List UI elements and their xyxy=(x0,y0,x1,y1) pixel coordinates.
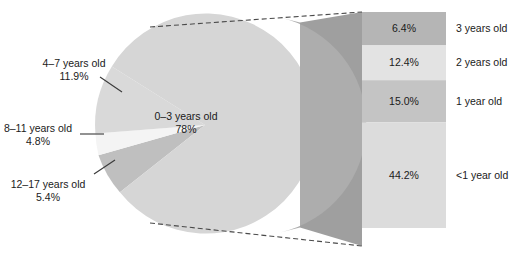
callout-8-11-years-value: 4.8% xyxy=(0,135,84,148)
callout-8-11-years-label: 8–11 years old xyxy=(0,122,84,135)
callout-4-7-years-label: 4–7 years old xyxy=(28,57,120,70)
bar-category-3-years: 3 years old xyxy=(456,22,507,34)
bar-category-1-year: 1 year old xyxy=(456,95,502,107)
callout-8-11-years: 8–11 years old 4.8% xyxy=(0,122,84,147)
bar-value-2-years: 12.4% xyxy=(362,56,446,68)
bar-value-3-years: 6.4% xyxy=(362,22,446,34)
bar-bottom-spacer xyxy=(362,228,446,246)
callout-12-17-years-value: 5.4% xyxy=(0,191,96,204)
pie-center-label: 0–3 years old 78% xyxy=(146,110,226,135)
pie-center-label-line2: 78% xyxy=(146,123,226,136)
callout-12-17-years-label: 12–17 years old xyxy=(0,178,96,191)
bar-value-1-year: 15.0% xyxy=(362,95,446,107)
callout-12-17-years: 12–17 years old 5.4% xyxy=(0,178,96,203)
bar-category-under-1-year: <1 year old xyxy=(456,169,508,181)
bar-value-under-1-year: 44.2% xyxy=(362,169,446,181)
pie-center-label-line1: 0–3 years old xyxy=(146,110,226,123)
callout-4-7-years: 4–7 years old 11.9% xyxy=(28,57,120,82)
bar-category-2-years: 2 years old xyxy=(456,56,507,68)
callout-4-7-years-value: 11.9% xyxy=(28,70,120,83)
pie-chart-with-breakout-bar-figure: 0–3 years old 78% 4–7 years old 11.9% 8–… xyxy=(0,0,524,259)
